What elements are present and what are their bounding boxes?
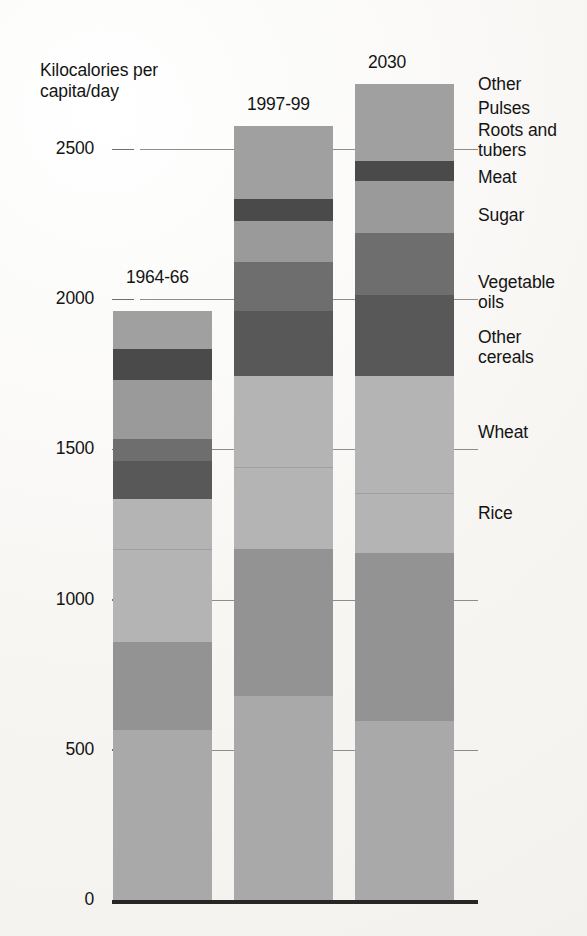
bar-segment-other[interactable] — [234, 126, 333, 198]
bar-segment-other-cereals[interactable] — [355, 493, 454, 553]
y-tick-label-1000: 1000 — [22, 589, 94, 610]
bar-segment-pulses[interactable] — [355, 161, 454, 181]
bar-segment-other[interactable] — [355, 84, 454, 161]
bar-segment-other[interactable] — [113, 311, 212, 349]
bar-segment-pulses[interactable] — [113, 349, 212, 381]
bar-segment-wheat[interactable] — [234, 549, 333, 696]
bar-segment-vegetable-oils[interactable] — [355, 376, 454, 493]
bar-segment-meat[interactable] — [113, 439, 212, 462]
bar-segment-vegetable-oils[interactable] — [234, 376, 333, 468]
bar-segment-rice[interactable] — [113, 730, 212, 900]
bar-segment-sugar[interactable] — [355, 295, 454, 376]
legend-label-rice: Rice — [478, 503, 513, 523]
bar-segment-wheat[interactable] — [355, 553, 454, 721]
bar-segment-pulses[interactable] — [234, 199, 333, 222]
bar-segment-rice[interactable] — [355, 721, 454, 900]
bar-label-1964-66: 1964-66 — [126, 267, 189, 288]
legend-label-other: Other — [478, 74, 521, 94]
bar-segment-vegetable-oils[interactable] — [113, 499, 212, 549]
y-tick-label-500: 500 — [22, 739, 94, 760]
bar-segment-other-cereals[interactable] — [113, 549, 212, 642]
bar-segment-meat[interactable] — [355, 233, 454, 295]
bar-segment-other-cereals[interactable] — [234, 467, 333, 548]
legend-label-sugar: Sugar — [478, 205, 524, 225]
bar-segment-wheat[interactable] — [113, 642, 212, 731]
bar-label-2030: 2030 — [368, 52, 406, 73]
legend-label-vegetable-oils: Vegetable oils — [478, 272, 555, 312]
legend-label-pulses: Pulses — [478, 98, 530, 118]
legend-label-wheat: Wheat — [478, 422, 528, 442]
bar-segment-rice[interactable] — [234, 696, 333, 900]
legend-label-other-cereals: Other cereals — [478, 327, 534, 367]
bar-segment-sugar[interactable] — [234, 311, 333, 376]
bar-1964-66[interactable] — [113, 0, 212, 900]
legend-label-meat: Meat — [478, 167, 517, 187]
bar-2030[interactable] — [355, 0, 454, 900]
legend-label-roots-and-tubers: Roots and tubers — [478, 120, 557, 160]
y-tick-label-2500: 2500 — [22, 138, 94, 159]
bar-segment-sugar[interactable] — [113, 461, 212, 499]
bar-label-1997-99: 1997-99 — [247, 94, 310, 115]
bar-segment-roots-and-tubers[interactable] — [113, 380, 212, 439]
y-tick-label-2000: 2000 — [22, 288, 94, 309]
bar-segment-roots-and-tubers[interactable] — [355, 181, 454, 234]
bar-1997-99[interactable] — [234, 0, 333, 900]
bar-segment-meat[interactable] — [234, 262, 333, 312]
bar-segment-roots-and-tubers[interactable] — [234, 221, 333, 262]
y-tick-label-1500: 1500 — [22, 438, 94, 459]
stacked-bar-chart: Kilocalories per capita/day 250020001500… — [0, 0, 587, 936]
y-tick-label-0: 0 — [22, 889, 94, 910]
x-axis-baseline — [112, 900, 478, 904]
